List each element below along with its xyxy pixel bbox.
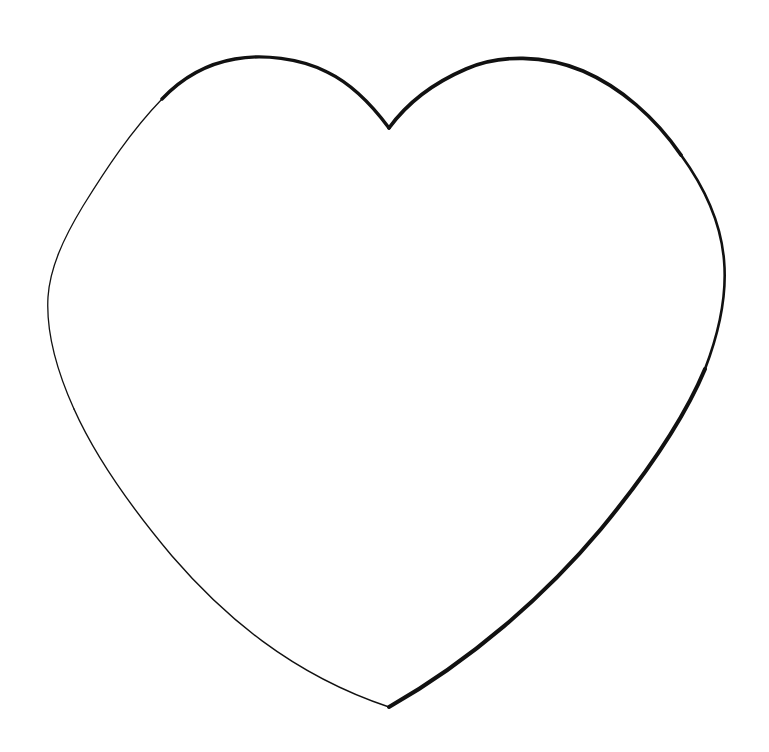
heart-outline-drawing bbox=[0, 0, 769, 752]
canvas: Black outline drawing of a heart shape o… bbox=[0, 0, 769, 752]
